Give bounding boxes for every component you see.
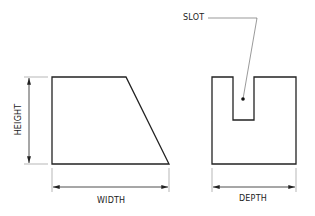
depth-label: DEPTH	[239, 194, 267, 203]
drawing-canvas	[0, 0, 315, 216]
slot-callout-label: SLOT	[183, 13, 204, 22]
slotted-block-view	[212, 77, 296, 164]
slot-leader-dot	[241, 97, 245, 101]
width-label: WIDTH	[97, 196, 125, 205]
trapezoid-view	[52, 77, 169, 164]
height-label: HEIGHT	[14, 104, 23, 136]
